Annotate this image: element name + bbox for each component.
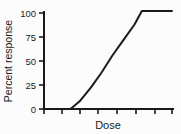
dose-response-curve <box>50 11 172 109</box>
y-tick-label-0: 0 <box>31 104 36 115</box>
dose-response-chart: 100 75 50 25 0 Dose Percent response <box>0 0 181 134</box>
x-axis-label: Dose <box>95 119 121 131</box>
y-axis-label: Percent response <box>2 20 14 102</box>
y-tick-label-75: 75 <box>25 32 36 43</box>
y-tick-label-50: 50 <box>25 56 36 67</box>
y-tick-label-100: 100 <box>20 8 36 19</box>
y-tick-label-25: 25 <box>25 80 36 91</box>
chart-canvas: 100 75 50 25 0 Dose Percent response <box>0 0 181 134</box>
